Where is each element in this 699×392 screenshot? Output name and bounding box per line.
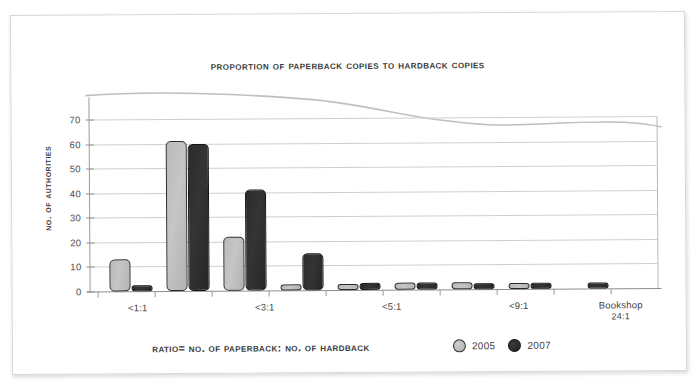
- bar-2007-6: [474, 283, 495, 289]
- x-tick-label-1: <3:1: [255, 301, 275, 312]
- scanned-page-card: Proportion of paperback copies to hardba…: [10, 11, 687, 375]
- y-tick-label-40: 40: [70, 188, 81, 199]
- chart-figure: Proportion of paperback copies to hardba…: [11, 12, 686, 374]
- bar-group-8: [565, 117, 566, 289]
- bar-2005-7: [509, 283, 530, 289]
- y-tick-label-50: 50: [70, 163, 81, 174]
- bar-2005-0: [109, 259, 130, 291]
- bar-group-2: [223, 119, 224, 291]
- legend-label-2007: 2007: [527, 340, 551, 351]
- y-tick-label-10: 10: [70, 262, 81, 273]
- bar-group-5: [394, 118, 395, 290]
- bar-2005-2: [223, 237, 244, 291]
- bar-2007-7: [531, 283, 552, 289]
- x-tick-label-1-main: <3:1: [255, 301, 275, 312]
- x-tick-mark-2: [212, 291, 213, 297]
- bar-2005-1: [166, 141, 188, 291]
- x-tick-mark-1: [155, 291, 156, 297]
- x-tick-label-0-main: <1:1: [128, 302, 148, 313]
- bar-2005-5: [395, 282, 416, 289]
- bar-group-6: [451, 117, 452, 289]
- x-tick-label-3: <9:1: [509, 300, 529, 311]
- bar-group-4: [337, 118, 338, 290]
- y-tick-label-20: 20: [70, 237, 81, 248]
- x-tick-mark-6: [440, 289, 441, 295]
- plot-area: 70 60 50 40 30 20 10 0: [90, 116, 658, 291]
- y-tick-mark-10: [86, 267, 94, 268]
- bar-group-1: [166, 119, 167, 291]
- x-tick-mark-7: [497, 289, 498, 295]
- bar-2007-4: [360, 282, 381, 289]
- y-tick-label-70: 70: [69, 114, 80, 125]
- x-tick-label-0: <1:1: [128, 302, 148, 313]
- y-tick-label-30: 30: [70, 212, 81, 223]
- bar-2007-8: [588, 282, 609, 288]
- x-tick-mark-3: [269, 290, 270, 296]
- right-axis-line: [657, 116, 659, 288]
- x-tick-label-4-sub: 24:1: [599, 311, 643, 321]
- bar-group-3: [280, 118, 281, 290]
- bar-2007-0: [132, 285, 153, 291]
- legend-item-2007: 2007: [508, 339, 551, 352]
- x-tick-mark-8: [554, 289, 555, 295]
- bar-2007-1: [188, 143, 210, 291]
- x-tick-mark-5: [383, 290, 384, 296]
- x-tick-label-3-main: <9:1: [509, 300, 529, 311]
- y-tick-mark-50: [86, 169, 94, 170]
- x-tick-mark-0: [98, 292, 99, 298]
- x-tick-label-4-main: Bookshop: [599, 299, 643, 310]
- x-tick-mark-4: [326, 290, 327, 296]
- x-tick-label-2-main: <5:1: [382, 301, 402, 312]
- y-axis-label: No. of authorities: [42, 146, 54, 231]
- legend-swatch-2007-icon: [508, 339, 521, 352]
- gridline-70: [90, 116, 657, 120]
- y-tick-mark-40: [86, 193, 94, 194]
- y-axis-line: [88, 98, 90, 293]
- y-tick-mark-60: [86, 144, 94, 145]
- bar-group-0: [109, 119, 110, 291]
- legend-swatch-2005-icon: [453, 339, 466, 352]
- legend-item-2005: 2005: [453, 339, 496, 352]
- bar-2005-4: [338, 284, 359, 290]
- chart-title: Proportion of paperback copies to hardba…: [11, 57, 684, 73]
- y-tick-label-0: 0: [76, 286, 82, 297]
- x-tick-mark-9: [611, 288, 612, 294]
- y-tick-mark-20: [86, 242, 94, 243]
- legend-label-2005: 2005: [472, 340, 496, 351]
- y-tick-mark-70: [86, 120, 94, 121]
- bar-group-7: [508, 117, 509, 289]
- chart-legend: 2005 2007: [453, 339, 551, 353]
- x-tick-label-4: Bookshop 24:1: [599, 299, 643, 321]
- y-tick-label-60: 60: [69, 139, 80, 150]
- y-tick-mark-0: [87, 292, 95, 293]
- x-tick-label-2: <5:1: [382, 301, 402, 312]
- bar-2005-6: [452, 282, 473, 289]
- bar-2007-2: [245, 190, 267, 291]
- bar-2005-3: [281, 284, 302, 290]
- y-tick-mark-30: [86, 218, 94, 219]
- bar-2007-5: [417, 282, 438, 289]
- bar-2007-3: [302, 253, 323, 290]
- x-axis-label: Ratio= no. of paperback: no. of hardback: [101, 341, 421, 355]
